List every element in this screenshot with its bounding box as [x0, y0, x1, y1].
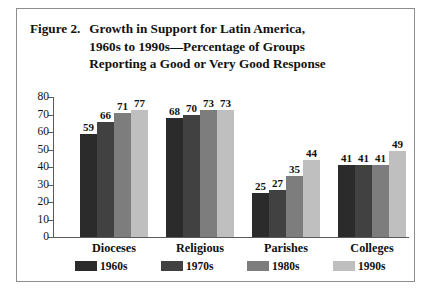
- y-axis-tick-label: 20: [38, 196, 50, 208]
- legend-swatch: [161, 261, 183, 271]
- bar-rect[interactable]: [114, 113, 131, 237]
- x-axis-category-label: Colleges: [318, 241, 426, 255]
- bar-rect[interactable]: [166, 118, 183, 237]
- y-axis-tick-label: 30: [38, 179, 50, 191]
- y-axis-tick-label: 80: [38, 91, 50, 103]
- bar-group: 59667177: [80, 97, 148, 237]
- bar-rect[interactable]: [355, 165, 372, 237]
- bar-rect[interactable]: [338, 165, 355, 237]
- legend-item[interactable]: 1970s: [161, 260, 213, 272]
- bar-column[interactable]: 41: [355, 97, 372, 237]
- bar-rect[interactable]: [200, 110, 217, 237]
- figure-title: Figure 2. Growth in Support for Latin Am…: [30, 20, 400, 73]
- y-axis-tick-label: 60: [38, 126, 50, 138]
- bar-column[interactable]: 77: [131, 97, 148, 237]
- bar-rect[interactable]: [217, 110, 234, 237]
- bar-column[interactable]: 41: [372, 97, 389, 237]
- bar-column[interactable]: 71: [114, 97, 131, 237]
- bar-value-label: 71: [117, 100, 128, 112]
- bar-value-label: 68: [169, 105, 180, 117]
- figure-title-line-1: Growth in Support for Latin America,: [89, 20, 325, 38]
- bar-value-label: 73: [203, 97, 214, 109]
- y-axis-tick-label: 50: [38, 144, 50, 156]
- legend-item[interactable]: 1960s: [75, 260, 127, 272]
- bar-column[interactable]: 35: [286, 97, 303, 237]
- bar-value-label: 25: [255, 180, 266, 192]
- bar-column[interactable]: 27: [269, 97, 286, 237]
- bar-value-label: 41: [341, 152, 352, 164]
- bar-group: 68707373: [166, 97, 234, 237]
- legend-swatch: [247, 261, 269, 271]
- figure-title-lines: Growth in Support for Latin America, 196…: [89, 20, 325, 73]
- bar-rect[interactable]: [303, 160, 320, 237]
- bar-rect[interactable]: [80, 134, 97, 237]
- bar-rect[interactable]: [389, 151, 406, 237]
- bar-value-label: 27: [272, 177, 283, 189]
- bar-column[interactable]: 68: [166, 97, 183, 237]
- bar-rect[interactable]: [131, 110, 148, 237]
- bar-value-label: 49: [392, 138, 403, 150]
- bar-column[interactable]: 44: [303, 97, 320, 237]
- bar-value-label: 59: [83, 121, 94, 133]
- bar-rect[interactable]: [183, 115, 200, 238]
- bar-column[interactable]: 41: [338, 97, 355, 237]
- bar-value-label: 70: [186, 102, 197, 114]
- legend-item[interactable]: 1980s: [247, 260, 299, 272]
- bar-rect[interactable]: [269, 190, 286, 237]
- legend-swatch: [333, 261, 355, 271]
- bar-value-label: 44: [306, 147, 317, 159]
- bar-column[interactable]: 70: [183, 97, 200, 237]
- bar-rect[interactable]: [286, 176, 303, 237]
- chart-plot-area: 01020304050607080 59667177Dioceses687073…: [53, 97, 397, 237]
- bar-column[interactable]: 49: [389, 97, 406, 237]
- y-axis-tick-label: 70: [38, 109, 50, 121]
- bar-column[interactable]: 25: [252, 97, 269, 237]
- bar-column[interactable]: 73: [200, 97, 217, 237]
- bar-rect[interactable]: [252, 193, 269, 237]
- legend-item[interactable]: 1990s: [333, 260, 385, 272]
- legend-label: 1960s: [100, 260, 127, 272]
- legend-swatch: [75, 261, 97, 271]
- bar-value-label: 66: [100, 109, 111, 121]
- bar-value-label: 41: [375, 152, 386, 164]
- bar-rect[interactable]: [372, 165, 389, 237]
- y-axis-tick-label: 40: [38, 161, 50, 173]
- bar-column[interactable]: 73: [217, 97, 234, 237]
- bar-value-label: 41: [358, 152, 369, 164]
- figure-title-line-2: 1960s to 1990s—Percentage of Groups: [89, 38, 325, 56]
- y-axis-tick-label: 0: [43, 231, 49, 243]
- legend-label: 1980s: [272, 260, 299, 272]
- x-axis-line: [53, 237, 409, 238]
- legend-label: 1990s: [358, 260, 385, 272]
- bar-rect[interactable]: [97, 122, 114, 238]
- bar-group: 25273544: [252, 97, 320, 237]
- figure-number-label: Figure 2.: [30, 20, 89, 38]
- bar-value-label: 35: [289, 163, 300, 175]
- bar-value-label: 73: [220, 97, 231, 109]
- figure-frame: Figure 2. Growth in Support for Latin Am…: [16, 8, 415, 282]
- bar-column[interactable]: 59: [80, 97, 97, 237]
- bar-value-label: 77: [134, 97, 145, 109]
- bar-column[interactable]: 66: [97, 97, 114, 237]
- figure-title-line-3: Reporting a Good or Very Good Response: [89, 55, 325, 73]
- bar-group: 41414149: [338, 97, 406, 237]
- y-axis-tick-label: 10: [38, 214, 50, 226]
- legend-label: 1970s: [186, 260, 213, 272]
